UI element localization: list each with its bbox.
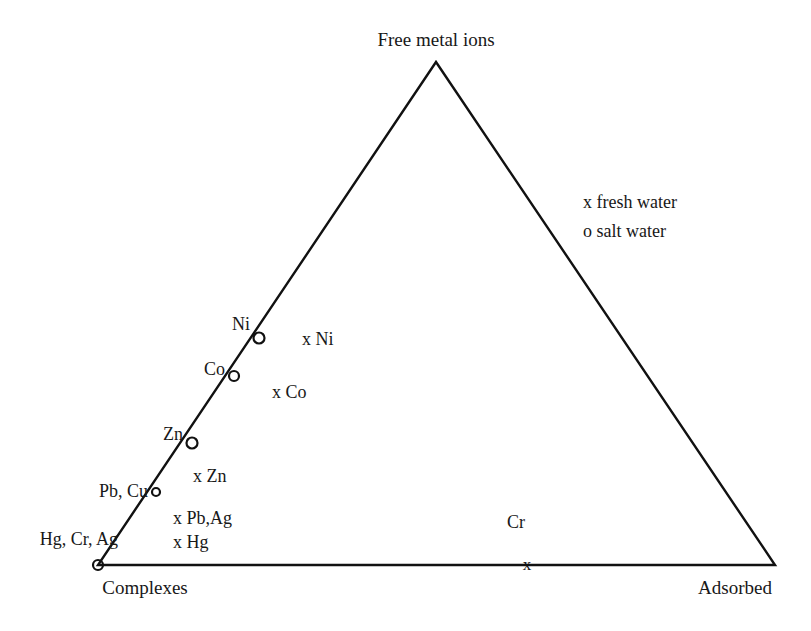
salt-water-marker-co — [229, 371, 239, 381]
apex-label-free-metal-ions: Free metal ions — [377, 30, 494, 49]
point-label-salt-ni: Ni — [232, 315, 250, 333]
point-label-salt-hg-cr-ag: Hg, Cr, Ag — [40, 530, 118, 548]
legend-salt-water: o salt water — [583, 222, 666, 240]
triangle-outline — [98, 62, 775, 565]
corner-label-complexes: Complexes — [102, 578, 188, 597]
salt-water-marker-zn — [187, 438, 198, 449]
point-label-fresh-cr: Cr — [507, 513, 525, 531]
ternary-diagram-figure: x Free metal ions Complexes Adsorbed x f… — [0, 0, 811, 631]
salt-water-marker-ni — [254, 333, 265, 344]
legend-fresh-water: x fresh water — [583, 193, 677, 211]
point-label-fresh-co: x Co — [272, 383, 307, 401]
corner-label-adsorbed: Adsorbed — [698, 578, 772, 597]
point-label-fresh-zn: x Zn — [193, 467, 227, 485]
salt-water-marker-pb-cu — [152, 488, 160, 496]
ternary-triangle-svg: x — [0, 0, 811, 631]
fresh-water-marker-cr: x — [523, 555, 532, 574]
point-label-salt-co: Co — [204, 360, 225, 378]
fresh-water-axis-marker-group: x — [523, 555, 532, 574]
point-label-fresh-ni: x Ni — [302, 330, 334, 348]
point-label-fresh-pb-ag: x Pb,Ag — [173, 509, 232, 527]
point-label-salt-pb-cu: Pb, Cu — [99, 482, 148, 500]
point-label-fresh-hg: x Hg — [173, 533, 209, 551]
point-label-salt-zn: Zn — [163, 425, 183, 443]
